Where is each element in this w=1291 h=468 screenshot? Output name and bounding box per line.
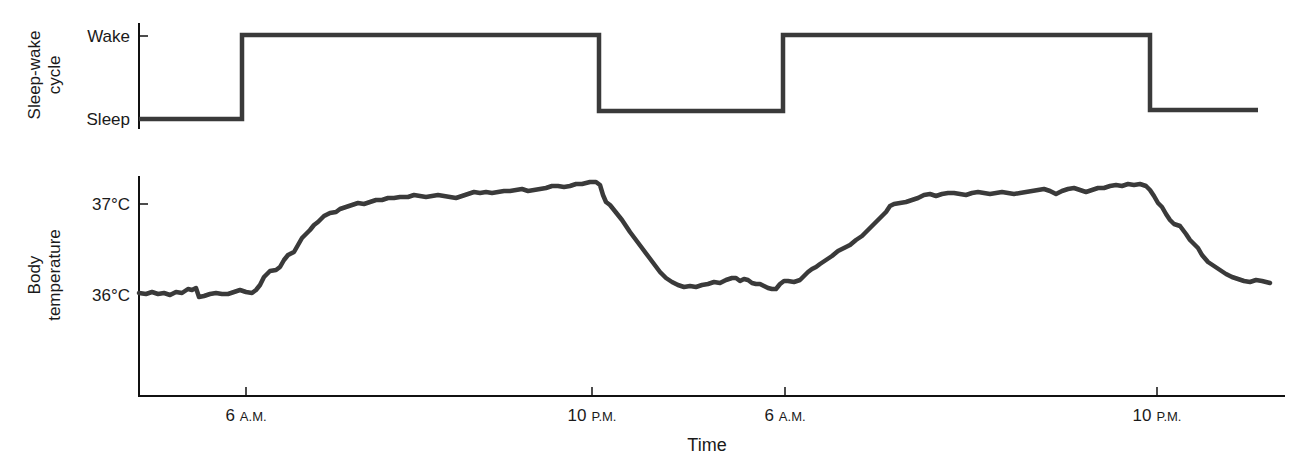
wake-tick-label: Wake — [87, 27, 130, 46]
x-tick-label-1: 6A.M. — [225, 406, 266, 425]
x-axis-title: Time — [687, 435, 726, 455]
x-tick-label-4: 10P.M. — [1133, 406, 1182, 425]
x-tick-label-3: 6A.M. — [764, 406, 805, 425]
t37-tick-label: 37°C — [92, 195, 130, 214]
temperature-panel: Body temperature 37°C 36°C 6A.M. 10P.M. … — [25, 176, 1285, 455]
bottom-ylabel-line2: temperature — [45, 229, 64, 321]
sleep-wake-panel: Sleep-wake cycle Wake Sleep — [25, 23, 1258, 129]
bottom-ylabel-line1: Body — [25, 255, 44, 294]
figure-canvas: Sleep-wake cycle Wake Sleep Body tempera… — [0, 0, 1291, 468]
body-temperature-line — [139, 182, 1270, 297]
top-ylabel-line2: cycle — [45, 56, 64, 95]
t36-tick-label: 36°C — [92, 286, 130, 305]
top-ylabel-line1: Sleep-wake — [25, 31, 44, 120]
sleep-wake-step-line — [139, 35, 1258, 119]
sleep-tick-label: Sleep — [87, 110, 130, 129]
x-tick-label-2: 10P.M. — [568, 406, 617, 425]
